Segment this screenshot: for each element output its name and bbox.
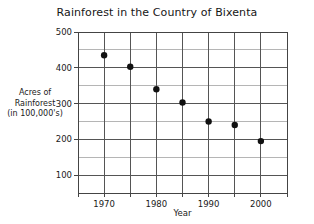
rainforest-scatter-chart: Rainforest in the Country of Bixenta Acr… <box>0 0 314 224</box>
y-axis-label-line-1: Acres of <box>2 88 68 99</box>
y-tick-label-500: 500 <box>44 27 72 37</box>
y-tick-label-100: 100 <box>44 170 72 180</box>
data-point: 1980: 340 <box>153 86 159 92</box>
data-point: 1970: 435 <box>101 52 107 58</box>
data-point: 1975: 403 <box>127 64 133 70</box>
data-point: 1995: 240 <box>232 122 238 128</box>
plot-svg: 1970: 4351975: 4031980: 3401985: 3031990… <box>78 32 287 193</box>
vertical-gridlines <box>104 32 261 193</box>
y-axis-tick-marks <box>74 32 78 175</box>
chart-title: Rainforest in the Country of Bixenta <box>0 6 314 19</box>
x-axis-label: Year <box>78 208 287 218</box>
y-axis-label-line-3: (in 100,000's) <box>2 109 68 120</box>
data-point: 1990: 250 <box>205 118 211 124</box>
y-tick-label-300: 300 <box>44 99 72 109</box>
y-tick-label-200: 200 <box>44 134 72 144</box>
y-tick-label-400: 400 <box>44 63 72 73</box>
data-point: 2000: 195 <box>258 138 264 144</box>
plot-area: 1970: 4351975: 4031980: 3401985: 3031990… <box>78 32 287 193</box>
data-point: 1985: 303 <box>179 99 185 105</box>
x-axis-tick-marks <box>78 193 287 197</box>
